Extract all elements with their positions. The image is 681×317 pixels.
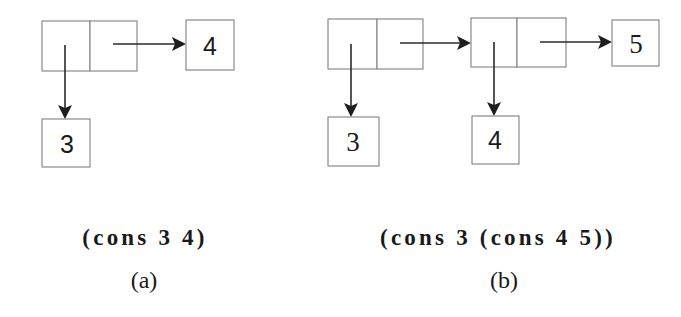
atom-box-4: 4 xyxy=(472,116,519,164)
diagram-a: 4 3 (cons 3 4) (a) xyxy=(42,20,234,293)
atom-box-3: 3 xyxy=(328,117,379,166)
atom-box-4: 4 xyxy=(186,20,234,70)
cons-cell-cdr xyxy=(377,19,423,69)
diagram-b: 5 3 4 (cons 3 (cons 4 5)) (b) xyxy=(328,18,659,293)
cons-cell-1 xyxy=(328,19,423,69)
cons-cell-car xyxy=(328,19,377,69)
atom-value: 4 xyxy=(488,126,502,154)
cons-cell xyxy=(42,21,137,71)
cons-cell-car xyxy=(42,21,90,71)
figure-label: (a) xyxy=(131,267,158,293)
atom-box-3: 3 xyxy=(42,119,90,167)
atom-value: 4 xyxy=(203,32,217,60)
expression-label: (cons 3 (cons 4 5)) xyxy=(380,225,616,250)
atom-value: 3 xyxy=(346,127,360,157)
expression-label: (cons 3 4) xyxy=(82,225,207,250)
cons-cell-cdr xyxy=(90,21,137,71)
atom-value: 3 xyxy=(60,130,74,158)
atom-value: 5 xyxy=(629,29,643,59)
cons-cell-diagrams: 4 3 (cons 3 4) (a) xyxy=(0,0,681,317)
atom-box-5: 5 xyxy=(612,20,659,66)
figure-label: (b) xyxy=(490,267,518,293)
